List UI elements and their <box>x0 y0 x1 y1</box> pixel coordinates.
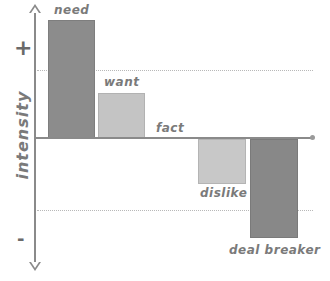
label-dislike: dislike <box>200 186 247 200</box>
y-axis-label: intensity <box>13 100 32 180</box>
baseline-end-dot <box>310 135 315 140</box>
arrow-up-icon-inner <box>31 7 39 13</box>
label-fact: fact <box>156 121 184 135</box>
label-need: need <box>54 3 89 17</box>
bar-need <box>48 20 95 138</box>
minus-marker: - <box>17 228 24 249</box>
x-axis-baseline <box>35 137 313 139</box>
bar-want <box>98 93 145 138</box>
bar-deal-breaker <box>250 139 298 238</box>
label-want: want <box>104 75 139 89</box>
label-deal-breaker: deal breaker <box>229 243 320 257</box>
plus-marker: + <box>14 35 32 60</box>
chart: + - intensity need want fact dislike dea… <box>0 0 330 281</box>
arrow-down-icon-inner <box>31 262 39 268</box>
bar-dislike <box>198 139 246 184</box>
